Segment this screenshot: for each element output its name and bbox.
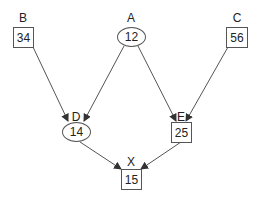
edge-c-to-e bbox=[186, 47, 228, 121]
node-a: 12 bbox=[117, 27, 146, 47]
node-c-value: 56 bbox=[230, 31, 243, 45]
node-b: 34 bbox=[13, 27, 34, 48]
node-b-value: 34 bbox=[17, 31, 30, 45]
edge-b-to-d bbox=[33, 47, 68, 121]
node-c: 56 bbox=[226, 27, 248, 48]
node-b-label: B bbox=[19, 12, 27, 24]
node-x: 15 bbox=[121, 169, 142, 190]
node-e-value: 25 bbox=[175, 126, 188, 140]
node-e: 25 bbox=[171, 122, 192, 143]
edge-a-to-e bbox=[138, 46, 176, 121]
edge-a-to-d bbox=[84, 46, 124, 121]
node-c-label: C bbox=[233, 12, 242, 24]
node-d-value: 14 bbox=[70, 125, 83, 139]
node-x-label: X bbox=[127, 156, 135, 168]
node-a-value: 12 bbox=[125, 30, 138, 44]
node-a-label: A bbox=[127, 12, 135, 24]
dag-diagram: B 34 A 12 C 56 D 14 E 25 X 15 bbox=[0, 0, 262, 199]
edge-e-to-x bbox=[141, 142, 181, 169]
node-x-value: 15 bbox=[125, 173, 138, 187]
node-d: 14 bbox=[62, 122, 91, 142]
edge-d-to-x bbox=[80, 142, 121, 169]
